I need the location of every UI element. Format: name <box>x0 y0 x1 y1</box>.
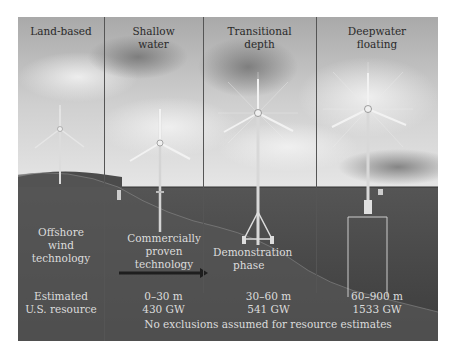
header-land-based: Land-based <box>18 25 104 38</box>
label-estimated-resource: EstimatedU.S. resource <box>18 290 104 316</box>
value-deepwater-resource: 60–900 m1533 GW <box>316 290 438 316</box>
footnote: No exclusions assumed for resource estim… <box>98 318 438 331</box>
value-transitional-resource: 30–60 m541 GW <box>212 290 325 316</box>
header-transitional-depth: Transitionaldepth <box>203 25 316 51</box>
offshore-wind-diagram: Land-based Shallowwater Transitionaldept… <box>18 17 438 341</box>
header-shallow-water: Shallowwater <box>104 25 203 51</box>
value-shallow-resource: 0–30 m430 GW <box>114 290 213 316</box>
header-deepwater-floating: Deepwaterfloating <box>316 25 438 51</box>
column-divider <box>104 17 105 341</box>
label-demonstration-phase: Demonstrationphase <box>203 246 326 272</box>
label-offshore-wind-technology: Offshorewindtechnology <box>18 226 104 265</box>
